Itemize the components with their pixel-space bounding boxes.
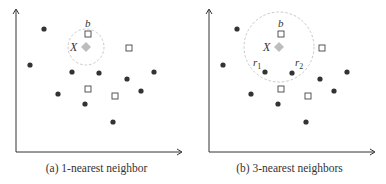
- axes: [206, 9, 375, 155]
- query-point-diamond: [274, 42, 284, 52]
- query-point-diamond: [81, 42, 91, 52]
- caption-a: (a) 1-nearest neighbor: [0, 162, 193, 174]
- scatter-plot-b: X b r1 r2: [193, 0, 386, 184]
- square-neighbor-label: b: [85, 17, 91, 29]
- query-label: X: [69, 40, 78, 54]
- class-circle-points: [220, 26, 349, 124]
- neighbor-label-r2: r2: [295, 56, 303, 71]
- class-square-points: [85, 31, 132, 99]
- panel-a-1-nearest: X b (a) 1-nearest neighbor: [0, 0, 193, 184]
- caption-b: (b) 3-nearest neighbors: [193, 162, 386, 174]
- axes: [13, 9, 182, 155]
- square-neighbor-label: b: [278, 17, 284, 29]
- query-label: X: [262, 40, 271, 54]
- class-circle-points: [27, 26, 156, 124]
- neighbor-label-r1: r1: [253, 56, 261, 71]
- scatter-plot-a: X b: [0, 0, 193, 184]
- panel-b-3-nearest: X b r1 r2 (b) 3-nearest neighbors: [193, 0, 386, 184]
